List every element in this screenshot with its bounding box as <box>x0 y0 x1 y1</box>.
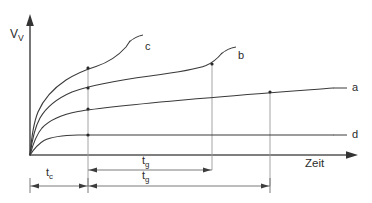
curve-c <box>30 41 130 155</box>
marker-curve-a-start <box>86 107 89 110</box>
dimension-arrow-tg-upper-left <box>89 167 97 172</box>
dimension-arrow-tg-lower-left <box>89 183 97 188</box>
curve-label-a: a <box>352 82 358 93</box>
y-axis-label: VV <box>10 28 24 43</box>
dimension-arrow-tc-left <box>31 183 39 188</box>
curve-label-b: b <box>238 50 244 61</box>
curve-a <box>30 88 333 155</box>
horizontal-axis-arrowhead <box>346 151 358 159</box>
marker-curve-d <box>86 133 89 136</box>
dimension-lines-group <box>30 167 270 193</box>
x-axis-label: Zeit <box>305 158 324 170</box>
dimension-arrow-tg-upper-right <box>203 167 211 172</box>
marker-curve-b-end <box>210 62 213 65</box>
marker-curve-b-start <box>86 86 89 89</box>
curve-d <box>30 135 333 155</box>
data-markers-group <box>86 62 271 136</box>
marker-curve-c <box>86 66 89 69</box>
diagram-vector-layer <box>0 0 372 203</box>
leader-curve-c <box>129 35 143 42</box>
curves-group <box>30 41 333 155</box>
vertical-axis-arrowhead <box>26 14 34 26</box>
curve-label-c: c <box>145 41 151 52</box>
dimension-label-tc-subscript: c <box>49 172 53 181</box>
axes-group <box>26 14 358 159</box>
diagram-canvas: VV Zeit c b a d tc tg tg <box>0 0 372 203</box>
dimension-arrow-tg-lower-right <box>261 183 269 188</box>
leader-curve-b <box>221 47 236 54</box>
dimension-label-tg-lower: tg <box>142 170 149 184</box>
dimension-label-tg-lower-subscript: g <box>145 175 149 184</box>
dimension-label-tg-upper-subscript: g <box>145 160 149 169</box>
dimension-label-tg-upper: tg <box>142 155 149 169</box>
curve-b <box>30 53 222 155</box>
y-axis-label-main: V <box>10 27 18 41</box>
marker-curve-a-end <box>268 90 271 93</box>
dimension-label-tc: tc <box>46 167 53 181</box>
y-axis-label-subscript: V <box>18 33 24 43</box>
dimension-arrow-tc-right <box>79 183 87 188</box>
curve-label-d: d <box>352 129 358 140</box>
